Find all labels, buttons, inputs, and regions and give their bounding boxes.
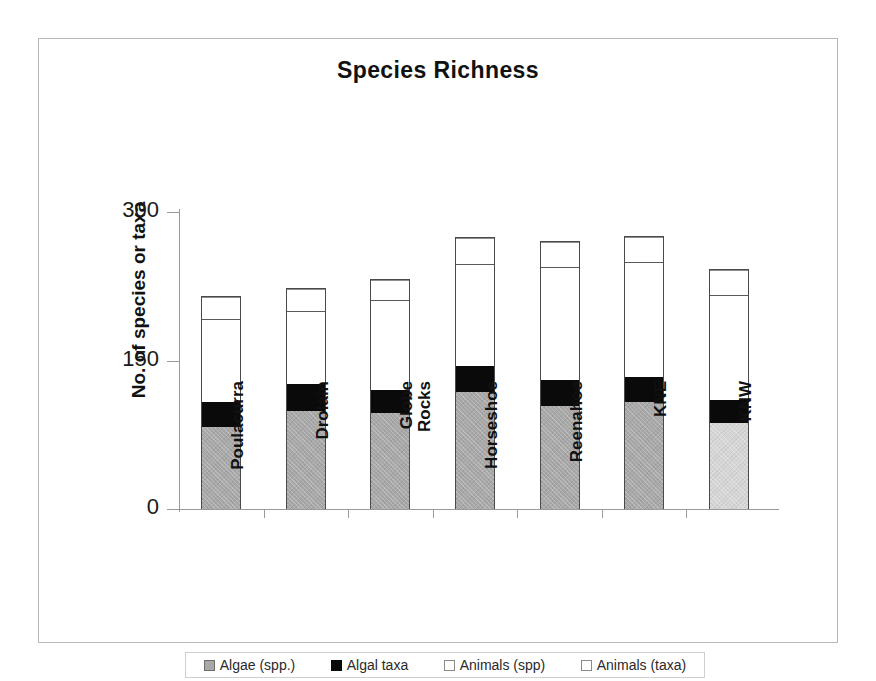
x-axis-category-label: Poulacurra [229,381,247,521]
y-axis-tick-label: 150 [79,346,159,372]
bar-segment-animals-spp[interactable] [371,300,409,390]
x-axis-tick [348,510,349,518]
y-axis-tick [167,212,179,213]
bar-top-edge [709,269,749,270]
x-axis-category-label: KNW [737,381,755,521]
legend-swatch-icon [204,660,215,671]
legend-swatch-icon [444,660,455,671]
chart-title: Species Richness [39,57,837,84]
x-axis-category-label: KNE [652,381,670,521]
legend-item-label: Algal taxa [347,657,408,673]
bar-segment-animals-taxa[interactable] [541,242,579,268]
bar-segment-animals-taxa[interactable] [625,237,663,262]
x-axis-tick [517,510,518,518]
x-axis-category-label: Horseshoe [483,381,501,521]
y-axis-tick [167,361,179,362]
bar-top-edge [286,288,326,289]
y-axis-tick-label: 0 [79,494,159,520]
chart-page: Species Richness No. of species or taxa … [0,0,876,681]
x-axis-tick [264,510,265,518]
x-axis-category-label: Reenahoe [568,381,586,521]
bar-segment-animals-taxa[interactable] [202,297,240,319]
y-axis-tick-label: 300 [79,197,159,223]
x-axis-category-label: Drolain [314,381,332,521]
legend-item-animals-spp[interactable]: Animals (spp) [444,657,546,673]
plot-area [179,212,771,509]
bar-top-edge [201,296,241,297]
bar-segment-animals-taxa[interactable] [287,289,325,311]
x-axis-tick [602,510,603,518]
x-axis-line [179,509,779,510]
bar-top-edge [370,279,410,280]
legend-item-algae-spp[interactable]: Algae (spp.) [204,657,295,673]
bar-top-edge [624,236,664,237]
chart-legend: Algae (spp.) Algal taxa Animals (spp) An… [185,652,705,678]
legend-swatch-icon [331,660,342,671]
bar-top-edge [455,237,495,238]
legend-item-algal-taxa[interactable]: Algal taxa [331,657,408,673]
legend-item-label: Algae (spp.) [220,657,295,673]
x-axis-category-label: Globe Rocks [398,381,434,521]
legend-item-label: Animals (taxa) [597,657,686,673]
bar-top-edge [540,241,580,242]
legend-item-label: Animals (spp) [460,657,546,673]
bar-segment-animals-taxa[interactable] [710,270,748,295]
bar-segment-animals-spp[interactable] [625,262,663,378]
bar-segment-animals-taxa[interactable] [371,280,409,300]
x-axis-tick [686,510,687,518]
legend-swatch-icon [581,660,592,671]
y-axis-tick [167,509,179,510]
legend-item-animals-taxa[interactable]: Animals (taxa) [581,657,686,673]
bar-segment-animals-spp[interactable] [456,264,494,366]
bar-segment-animals-spp[interactable] [287,311,325,384]
bar-segment-animals-taxa[interactable] [456,238,494,265]
bar-segment-animals-spp[interactable] [541,267,579,380]
chart-frame: Species Richness No. of species or taxa … [38,38,838,643]
